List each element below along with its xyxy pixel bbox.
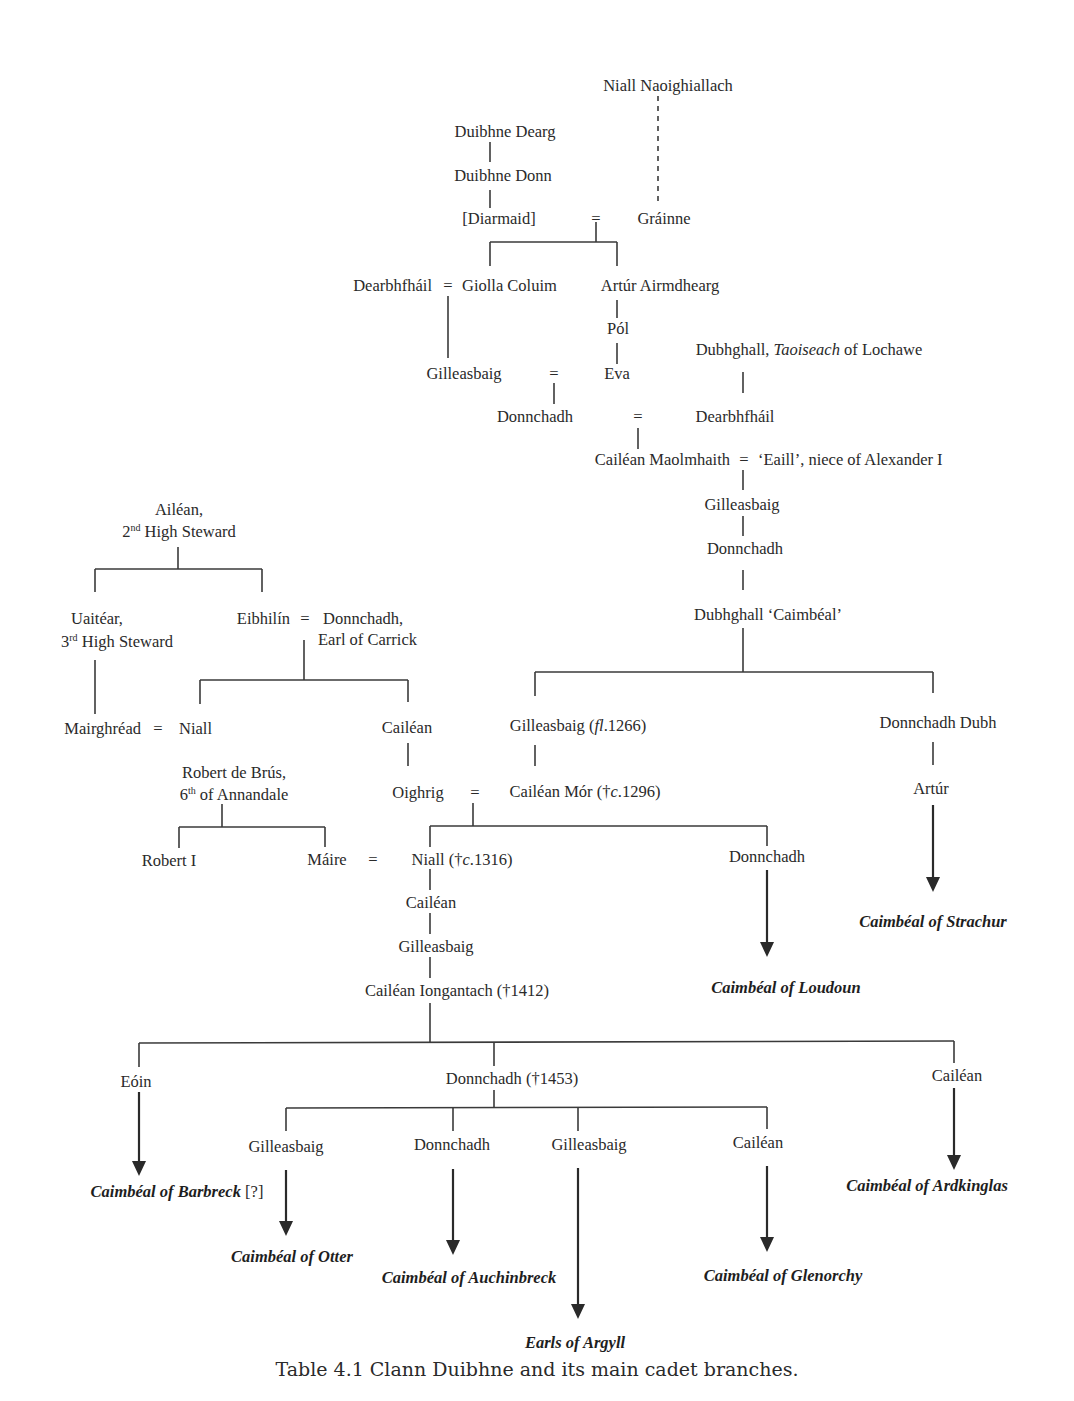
person-maire: Máire — [307, 850, 346, 869]
person-cailean-4: Cailéan — [733, 1133, 783, 1152]
descent-arrows — [132, 805, 961, 1319]
marriage-sign: = — [443, 276, 452, 295]
person-duibhne-donn: Duibhne Donn — [454, 166, 552, 185]
arrow-to-loudoun-icon — [760, 870, 774, 957]
person-donnchadh-4: Donnchadh — [414, 1135, 491, 1154]
arrow-to-glenorchy-icon — [760, 1166, 774, 1252]
person-artur-airmdhearg: Artúr Airmdhearg — [601, 276, 719, 295]
person-cailean-2: Cailéan — [406, 893, 456, 912]
person-pol: Pól — [607, 319, 629, 338]
arrow-to-barbreck-icon — [132, 1092, 146, 1176]
person-gilleasbaig-2: Gilleasbaig — [704, 495, 779, 514]
person-donnchadh-1453: Donnchadh (†1453) — [446, 1069, 578, 1088]
person-dubhghall-taoiseach: Dubhghall, Taoiseach of Lochawe — [696, 340, 923, 359]
arrow-to-argyll-icon — [571, 1168, 585, 1319]
person-ailean-title: 2nd High Steward — [122, 522, 236, 541]
branch-barbreck: Caimbéal of Barbreck [?] — [91, 1182, 264, 1201]
person-donnchadh-2: Donnchadh — [707, 539, 784, 558]
branch-ardkinglas: Caimbéal of Ardkinglas — [846, 1176, 1008, 1195]
person-dearbhfhail-1: Dearbhfháil — [353, 276, 432, 295]
person-duibhne-dearg: Duibhne Dearg — [455, 122, 556, 141]
marriage-sign: = — [739, 450, 748, 469]
arrow-to-otter-icon — [279, 1170, 293, 1236]
person-eva: Eva — [604, 364, 630, 383]
marriage-sign: = — [300, 609, 309, 628]
marriage-sign: = — [591, 209, 600, 228]
person-cailean-iongantach: Cailéan Iongantach (†1412) — [365, 981, 549, 1000]
person-donnchadh-dubh: Donnchadh Dubh — [880, 713, 998, 732]
arrow-to-ardkinglas-icon — [947, 1088, 961, 1170]
person-gilleasbaig-5: Gilleasbaig — [551, 1135, 626, 1154]
person-donnchadh-carrick-title: Earl of Carrick — [318, 630, 418, 649]
person-eibhilin: Eibhilín — [237, 609, 290, 628]
person-dearbhfhail-2: Dearbhfháil — [696, 407, 775, 426]
person-gilleasbaig-fl: Gilleasbaig (fl.1266) — [510, 716, 647, 735]
person-donnchadh-carrick: Donnchadh, — [323, 609, 403, 628]
person-cailean-1: Cailéan — [382, 718, 432, 737]
marriage-sign: = — [153, 719, 162, 738]
person-niall-1: Niall — [179, 719, 212, 738]
person-robert-de-brus: Robert de Brús, — [182, 763, 286, 782]
person-eaill: ‘Eaill’, niece of Alexander I — [758, 450, 943, 469]
arrow-to-strachur-icon — [926, 805, 940, 892]
marriage-sign: = — [368, 850, 377, 869]
person-cailean-mor: Cailéan Mór (†c.1296) — [510, 782, 661, 801]
person-grainne: Gráinne — [637, 209, 690, 228]
marriage-sign: = — [549, 364, 558, 383]
person-ailean: Ailéan, — [155, 500, 203, 519]
marriage-sign: = — [470, 783, 479, 802]
branch-glenorchy: Caimbéal of Glenorchy — [704, 1266, 863, 1285]
cadet-branches: Caimbéal of Strachur Caimbéal of Loudoun… — [91, 912, 1008, 1352]
branch-loudoun: Caimbéal of Loudoun — [711, 978, 860, 997]
branch-argyll: Earls of Argyll — [524, 1333, 626, 1352]
person-uaitear-title: 3rd High Steward — [61, 632, 174, 651]
genealogy-tree: Niall Naoighiallach Duibhne Dearg Duibhn… — [0, 0, 1074, 1401]
person-donnchadh-1: Donnchadh — [497, 407, 574, 426]
table-caption: Table 4.1 Clann Duibhne and its main cad… — [0, 1358, 1074, 1380]
person-cailean-maolmhaith: Cailéan Maolmhaith — [595, 450, 731, 469]
person-mairghread: Mairghréad — [64, 719, 141, 738]
arrow-to-auchinbreck-icon — [446, 1169, 460, 1255]
person-niall-1316: Niall (†c.1316) — [412, 850, 513, 869]
person-gilleasbaig-3: Gilleasbaig — [398, 937, 473, 956]
person-donnchadh-3: Donnchadh — [729, 847, 806, 866]
person-uaitear: Uaitéar, — [71, 609, 123, 628]
person-eoin: Eóin — [120, 1072, 151, 1091]
person-oighrig: Oighrig — [392, 783, 443, 802]
person-gilleasbaig-1: Gilleasbaig — [426, 364, 501, 383]
person-robert-de-brus-title: 6th of Annandale — [180, 785, 289, 804]
person-diarmaid: [Diarmaid] — [462, 209, 535, 228]
person-artur: Artúr — [913, 779, 949, 798]
person-giolla-coluim: Giolla Coluim — [462, 276, 557, 295]
person-dubhghall-caimbeal: Dubhghall ‘Caimbéal’ — [694, 605, 842, 624]
person-robert-i: Robert I — [142, 851, 197, 870]
branch-strachur: Caimbéal of Strachur — [859, 912, 1007, 931]
person-gilleasbaig-4: Gilleasbaig — [248, 1137, 323, 1156]
person-cailean-3: Cailéan — [932, 1066, 982, 1085]
marriage-sign: = — [633, 407, 642, 426]
person-niall-naoighiallach: Niall Naoighiallach — [603, 76, 733, 95]
branch-auchinbreck: Caimbéal of Auchinbreck — [382, 1268, 557, 1287]
branch-otter: Caimbéal of Otter — [231, 1247, 353, 1266]
